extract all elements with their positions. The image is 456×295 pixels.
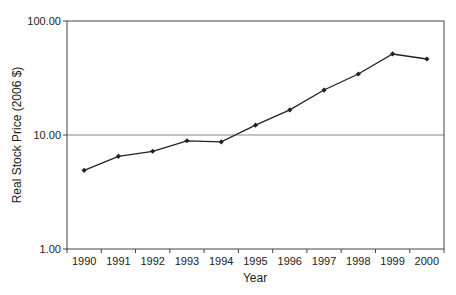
x-axis-title: Year <box>243 271 267 285</box>
x-tick-label: 1990 <box>72 255 96 267</box>
y-axis-title: Real Stock Price (2006 $) <box>10 67 24 204</box>
y-tick-label: 100.00 <box>27 15 61 27</box>
line-chart: 1.0010.00100.00 199019911992199319941995… <box>0 0 456 295</box>
x-tick-label: 1994 <box>209 255 233 267</box>
x-tick-label: 1996 <box>278 255 302 267</box>
series-line <box>84 54 427 170</box>
x-tick-label: 1997 <box>312 255 336 267</box>
diamond-marker-icon <box>219 139 224 144</box>
diamond-marker-icon <box>253 123 258 128</box>
x-axis: 1990199119921993199419951996199719981999… <box>67 249 444 267</box>
diamond-marker-icon <box>82 168 87 173</box>
y-tick-label: 10.00 <box>33 129 61 141</box>
x-tick-label: 1998 <box>346 255 370 267</box>
diamond-marker-icon <box>150 149 155 154</box>
x-tick-label: 1993 <box>175 255 199 267</box>
diamond-marker-icon <box>116 154 121 159</box>
x-tick-label: 1992 <box>140 255 164 267</box>
diamond-marker-icon <box>321 87 326 92</box>
x-tick-label: 1999 <box>380 255 404 267</box>
diamond-marker-icon <box>424 56 429 61</box>
diamond-marker-icon <box>356 71 361 76</box>
diamond-marker-icon <box>184 138 189 143</box>
x-tick-label: 1995 <box>243 255 267 267</box>
diamond-marker-icon <box>287 107 292 112</box>
y-tick-label: 1.00 <box>40 243 61 255</box>
x-tick-label: 2000 <box>415 255 439 267</box>
x-tick-label: 1991 <box>106 255 130 267</box>
y-axis: 1.0010.00100.00 <box>27 15 67 255</box>
